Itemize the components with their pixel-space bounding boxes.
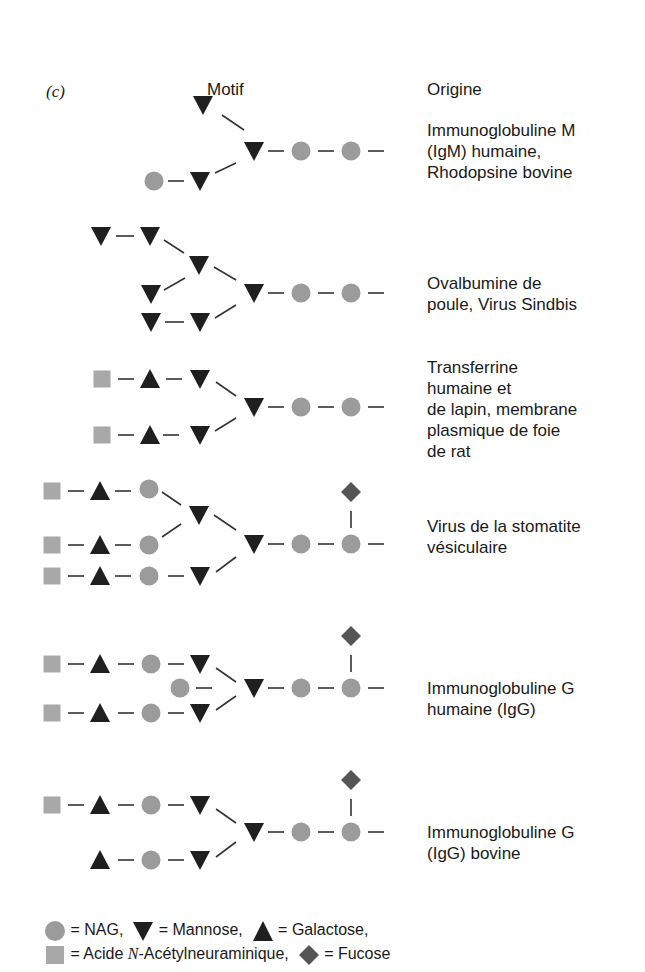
legend-fucose: = Fucose bbox=[324, 945, 390, 962]
legend-galactose: = Galactose, bbox=[278, 921, 368, 938]
fucose-diamond-icon bbox=[298, 944, 320, 966]
origin-line: de lapin, membrane bbox=[427, 399, 577, 420]
origin-line: (IgG) bovine bbox=[427, 843, 574, 864]
origin-line: poule, Virus Sindbis bbox=[427, 294, 577, 315]
galactose-triangle-up-icon bbox=[252, 920, 274, 942]
origin-row-4: Virus de la stomatite vésiculaire bbox=[427, 516, 581, 558]
mannose-triangle-down-icon bbox=[132, 920, 154, 942]
legend-mannose: = Mannose, bbox=[159, 921, 243, 938]
oligosaccharide-motif-figure: (c) Motif Origine bbox=[0, 0, 645, 972]
origin-line: (IgM) humaine, bbox=[427, 141, 575, 162]
legend-nag: = NAG, bbox=[70, 921, 123, 938]
origin-line: Ovalbumine de bbox=[427, 273, 577, 294]
nag-circle-icon bbox=[44, 920, 66, 942]
legend-line-1: = NAG, = Mannose, = Galactose, bbox=[44, 920, 368, 942]
origin-row-3: Transferrine humaine et de lapin, membra… bbox=[427, 357, 577, 462]
origin-row-1: Immunoglobuline M (IgM) humaine, Rhodops… bbox=[427, 120, 575, 183]
origin-line: vésiculaire bbox=[427, 537, 581, 558]
origin-row-5: Immunoglobuline G humaine (IgG) bbox=[427, 678, 574, 720]
origin-line: Virus de la stomatite bbox=[427, 516, 581, 537]
origin-line: Immunoglobuline M bbox=[427, 120, 575, 141]
origin-line: Immunoglobuline G bbox=[427, 678, 574, 699]
origin-row-2: Ovalbumine de poule, Virus Sindbis bbox=[427, 273, 577, 315]
legend-sialic-italic: N bbox=[128, 945, 139, 962]
origin-line: humaine (IgG) bbox=[427, 699, 574, 720]
legend-sialic-prefix: = Acide bbox=[70, 945, 127, 962]
legend-line-2: = Acide N-Acétylneuraminique, = Fucose bbox=[44, 944, 390, 966]
sialic-acid-square-icon bbox=[44, 944, 66, 966]
legend-sialic-suffix: -Acétylneuraminique, bbox=[139, 945, 289, 962]
origin-row-6: Immunoglobuline G (IgG) bovine bbox=[427, 822, 574, 864]
origin-line: Transferrine bbox=[427, 357, 577, 378]
origin-line: de rat bbox=[427, 441, 577, 462]
origin-line: humaine et bbox=[427, 378, 577, 399]
origin-line: Immunoglobuline G bbox=[427, 822, 574, 843]
origin-line: plasmique de foie bbox=[427, 420, 577, 441]
origin-line: Rhodopsine bovine bbox=[427, 162, 575, 183]
